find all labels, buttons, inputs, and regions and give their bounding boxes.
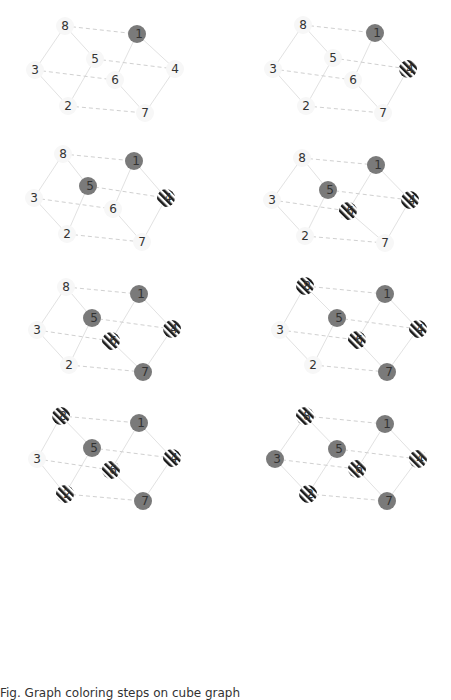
node-6: 6 [102,461,120,479]
node-label: 1 [383,287,391,301]
graph-panel-step-5: 12345678 [28,278,181,381]
node-5: 5 [86,50,104,68]
node-label: 5 [326,183,334,197]
node-4: 4 [399,60,417,78]
node-label: 2 [306,487,314,501]
node-label: 6 [355,333,363,347]
edge-2-7 [68,106,145,113]
edge-2-7 [308,494,387,501]
node-label: 2 [63,227,71,241]
node-label: 1 [137,416,145,430]
node-2: 2 [58,225,76,243]
node-7: 7 [378,363,396,381]
node-3: 3 [25,189,43,207]
node-label: 8 [59,147,67,161]
node-label: 6 [109,202,117,216]
node-label: 6 [109,463,117,477]
node-label: 6 [346,204,354,218]
node-1: 1 [367,156,385,174]
edge-3-6 [35,70,115,80]
node-label: 1 [132,154,140,168]
node-2: 2 [304,356,322,374]
node-5: 5 [79,177,97,195]
node-6: 6 [348,460,366,478]
node-7: 7 [133,233,151,251]
node-3: 3 [28,450,46,468]
edge-5-4 [92,318,172,329]
node-8: 8 [56,17,74,35]
graph-panel-step-2: 12345678 [264,16,417,122]
node-label: 5 [90,441,98,455]
node-7: 7 [136,104,154,122]
edge-5-4 [88,186,166,198]
graph-panel-step-8: 12345678 [266,407,427,510]
edge-2-7 [67,234,142,242]
node-label: 3 [33,323,41,337]
edge-8-1 [63,154,134,161]
node-label: 4 [416,452,424,466]
node-8: 8 [57,278,75,296]
node-3: 3 [271,321,289,339]
node-6: 6 [344,71,362,89]
node-4: 4 [409,450,427,468]
node-1: 1 [130,414,148,432]
edge-3-6 [273,69,353,80]
node-5: 5 [328,309,346,327]
node-label: 7 [379,106,387,120]
edge-2-7 [306,106,383,113]
node-label: 4 [170,451,178,465]
node-label: 7 [385,365,393,379]
node-label: 3 [276,323,284,337]
node-1: 1 [128,25,146,43]
edge-8-1 [65,26,137,34]
edge-3-6 [37,330,111,341]
node-label: 4 [171,62,179,76]
edge-3-6 [37,459,111,470]
node-4: 4 [401,191,419,209]
node-label: 6 [111,73,119,87]
node-1: 1 [376,285,394,303]
node-5: 5 [319,181,337,199]
node-3: 3 [28,321,46,339]
node-label: 7 [141,365,149,379]
edge-3-6 [275,459,357,469]
graph-panel-step-7: 12345678 [28,407,181,510]
node-8: 8 [296,407,314,425]
node-1: 1 [130,285,148,303]
node-label: 3 [31,63,39,77]
node-1: 1 [366,24,384,42]
edge-5-4 [333,58,408,69]
graph-panel-step-1: 12345678 [26,17,184,122]
node-label: 5 [90,311,98,325]
node-label: 8 [298,151,306,165]
node-label: 8 [303,279,311,293]
node-label: 7 [381,236,389,250]
edge-8-1 [303,25,375,33]
node-6: 6 [348,331,366,349]
node-label: 1 [374,158,382,172]
node-2: 2 [299,485,317,503]
edge-8-1 [305,286,385,294]
node-label: 1 [373,26,381,40]
node-label: 8 [61,19,69,33]
node-label: 3 [273,452,281,466]
node-label: 5 [91,52,99,66]
node-label: 3 [30,191,38,205]
node-label: 8 [303,409,311,423]
node-2: 2 [56,485,74,503]
node-label: 7 [141,106,149,120]
node-label: 2 [302,99,310,113]
node-5: 5 [83,439,101,457]
edge-5-4 [337,318,418,329]
node-4: 4 [409,320,427,338]
edge-2-7 [313,365,387,372]
node-label: 1 [137,287,145,301]
node-label: 6 [349,73,357,87]
node-6: 6 [104,200,122,218]
node-3: 3 [263,191,281,209]
node-5: 5 [83,309,101,327]
node-label: 2 [64,99,72,113]
node-3: 3 [26,61,44,79]
node-1: 1 [376,415,394,433]
edge-8-1 [305,416,385,424]
